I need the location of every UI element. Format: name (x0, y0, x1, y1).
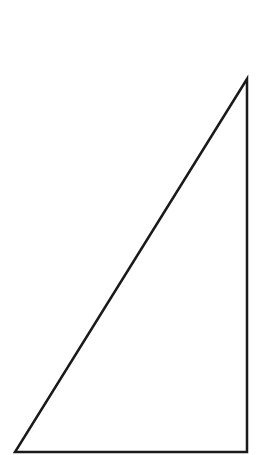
right-triangle-shape (15, 79, 247, 452)
triangle-diagram (0, 0, 280, 455)
diagram-canvas (0, 0, 280, 455)
